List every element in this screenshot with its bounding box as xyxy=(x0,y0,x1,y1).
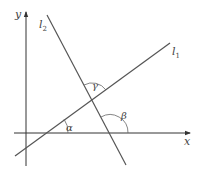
l2-subscript: 2 xyxy=(43,25,47,33)
angle-gamma-label: γ xyxy=(92,80,98,91)
x-axis-label: x xyxy=(184,135,191,148)
y-axis-label: y xyxy=(14,8,22,21)
line-l2 xyxy=(47,15,126,165)
l1-label: l1 xyxy=(172,45,180,60)
diagram-canvas: y x l2 l1 α β γ xyxy=(0,0,197,170)
l2-label: l2 xyxy=(39,18,47,33)
angle-alpha-label: α xyxy=(66,122,73,133)
l1-subscript: 1 xyxy=(176,52,180,60)
angle-beta-label: β xyxy=(120,110,127,121)
line-l1 xyxy=(15,43,170,156)
